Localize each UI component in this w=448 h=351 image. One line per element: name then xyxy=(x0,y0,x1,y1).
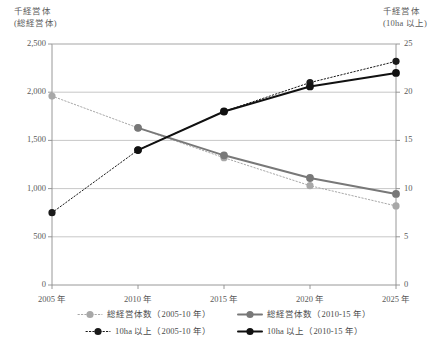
right-axis-tick-label: 25 xyxy=(404,38,434,48)
chart-legend: 総経営体数（2005-10 年）総経営体数（2010-15 年）10ha 以上（… xyxy=(0,306,448,348)
right-axis-tick-label: 0 xyxy=(404,279,434,289)
series-marker-1-0 xyxy=(134,124,142,132)
left-axis-tick-label: 2,500 xyxy=(6,38,46,48)
series-marker-2-0 xyxy=(48,209,55,216)
right-axis-tick-label: 15 xyxy=(404,134,434,144)
left-axis-tick-label: 500 xyxy=(6,231,46,241)
legend-label: 10ha 以上（2005-10 年） xyxy=(115,326,211,337)
legend-10ha-2005-10[interactable]: 10ha 以上（2005-10 年） xyxy=(85,326,211,337)
x-axis-tick-label: 2020 年 xyxy=(275,292,345,304)
series-marker-1-3 xyxy=(392,190,400,198)
series-marker-3-2 xyxy=(306,83,314,91)
series-marker-0-4 xyxy=(392,202,399,209)
legend-row-0: 総経営体数（2005-10 年）総経営体数（2010-15 年） xyxy=(0,306,448,323)
legend-label: 総経営体数（2010-15 年） xyxy=(267,309,371,320)
series-marker-3-0 xyxy=(134,146,142,154)
x-axis-tick-label: 2010 年 xyxy=(103,292,173,304)
legend-row-1: 10ha 以上（2005-10 年）10ha 以上（2010-15 年） xyxy=(0,323,448,340)
right-axis-tick-label: 5 xyxy=(404,231,434,241)
legend-marker-icon xyxy=(237,326,263,337)
legend-marker-icon xyxy=(77,309,103,320)
right-axis-tick-label: 10 xyxy=(404,183,434,193)
legend-label: 総経営体数（2005-10 年） xyxy=(107,309,211,320)
right-axis-tick-label: 20 xyxy=(404,86,434,96)
left-axis-tick-label: 1,000 xyxy=(6,183,46,193)
series-line-1 xyxy=(138,128,396,194)
series-marker-3-1 xyxy=(220,108,228,116)
series-marker-0-0 xyxy=(48,92,55,99)
x-axis-tick-label: 2005 年 xyxy=(17,292,87,304)
chart-figure: 千経営体 (総経営体) 千経営体 (10ha 以上) 2,5002,0001,5… xyxy=(0,0,448,351)
legend-total-2005-10[interactable]: 総経営体数（2005-10 年） xyxy=(77,309,211,320)
x-axis-tick-label: 2015 年 xyxy=(189,292,259,304)
series-line-3 xyxy=(138,73,396,150)
left-axis-tick-label: 1,500 xyxy=(6,134,46,144)
left-axis-tick-label: 2,000 xyxy=(6,86,46,96)
legend-label: 10ha 以上（2010-15 年） xyxy=(267,326,363,337)
legend-marker-icon xyxy=(237,309,263,320)
series-marker-0-3 xyxy=(306,182,313,189)
series-marker-3-3 xyxy=(392,69,400,77)
left-axis-tick-label: 0 xyxy=(6,279,46,289)
legend-10ha-2010-15[interactable]: 10ha 以上（2010-15 年） xyxy=(237,326,363,337)
series-marker-1-2 xyxy=(306,174,314,182)
legend-total-2010-15[interactable]: 総経営体数（2010-15 年） xyxy=(237,309,371,320)
x-axis-tick-label: 2025 年 xyxy=(361,292,431,304)
series-marker-1-1 xyxy=(220,151,228,159)
series-marker-2-4 xyxy=(392,58,399,65)
series-line-2 xyxy=(52,61,396,212)
legend-marker-icon xyxy=(85,326,111,337)
